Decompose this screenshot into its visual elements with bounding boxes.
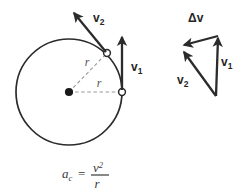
triangle-delta-v-label: Δv	[188, 11, 204, 25]
v1-subscript: 1	[138, 66, 143, 76]
v2-subscript: 2	[100, 17, 105, 27]
radius-label-diagonal: r	[85, 55, 90, 69]
radius-label-horizontal: r	[97, 76, 102, 90]
diagram-canvas: r r v1 v2 ac = v2 r	[0, 0, 242, 192]
center-dot	[65, 88, 73, 96]
triangle-v1-subscript: 1	[228, 61, 233, 71]
formula-a-subscript: c	[69, 173, 73, 183]
formula-equals-sign: =	[78, 166, 85, 181]
physics-diagram-figure: r r v1 v2 ac = v2 r	[0, 0, 242, 192]
triangle-v2-subscript: 2	[184, 79, 189, 89]
